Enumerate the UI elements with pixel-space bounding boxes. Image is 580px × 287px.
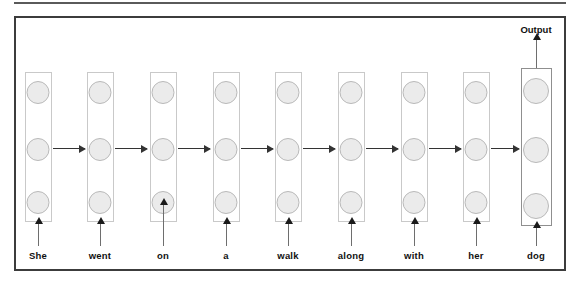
node-circle [27,191,50,214]
input-arrow-on [163,205,164,246]
input-arrow-went [100,224,101,246]
node-circle [465,81,488,104]
node-circle [27,138,50,161]
node-circle [215,138,238,161]
recurrent-arrow-2 [115,148,147,149]
input-arrow-she [38,224,39,246]
timestep-column-with [401,72,428,222]
input-arrow-with [414,224,415,246]
node-circle [403,81,426,104]
recurrent-arrow-4 [241,148,273,149]
word-label-dog: dog [491,250,580,261]
recurrent-arrow-7 [429,148,461,149]
node-circle [215,191,238,214]
node-circle [152,81,175,104]
timestep-column-her [463,72,490,222]
node-circle [277,191,300,214]
node-circle [27,81,50,104]
timestep-column-dog [521,68,552,226]
input-arrow-along [351,224,352,246]
node-circle [277,138,300,161]
node-circle [152,138,175,161]
recurrent-arrow-3 [178,148,210,149]
node-circle [89,191,112,214]
timestep-column-went [87,72,114,222]
recurrent-arrow-5 [303,148,335,149]
timestep-column-a [213,72,240,222]
recurrent-arrow-1 [53,148,85,149]
timestep-column-along [338,72,365,222]
recurrent-arrow-8 [491,148,519,149]
node-circle [523,78,549,104]
input-arrow-her [476,224,477,246]
node-circle [340,191,363,214]
node-circle [277,81,300,104]
node-circle [340,138,363,161]
node-circle [215,81,238,104]
node-circle [89,138,112,161]
node-circle [89,81,112,104]
input-arrow-walk [288,224,289,246]
input-arrow-a [226,224,227,246]
network-layer: Output Shewentonawalkalongwithherdog [0,0,580,287]
node-circle [465,191,488,214]
timestep-column-walk [275,72,302,222]
node-circle [403,191,426,214]
recurrent-arrow-6 [366,148,398,149]
diagram-root: Output Shewentonawalkalongwithherdog [0,0,580,287]
node-circle [465,138,488,161]
node-circle [340,81,363,104]
node-circle [403,138,426,161]
node-circle [523,137,549,163]
input-arrow-dog [536,228,537,246]
timestep-column-she [25,72,52,222]
node-circle [523,193,549,219]
output-arrow [536,40,537,68]
